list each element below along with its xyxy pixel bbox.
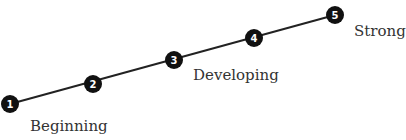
svg-text:4: 4 bbox=[251, 33, 258, 44]
node-2: 2 bbox=[84, 75, 102, 93]
label-strong: Strong bbox=[354, 22, 406, 40]
node-5: 5 bbox=[326, 6, 344, 24]
svg-text:5: 5 bbox=[332, 10, 339, 21]
node-4: 4 bbox=[245, 29, 263, 47]
node-3: 3 bbox=[165, 51, 183, 69]
svg-text:3: 3 bbox=[171, 55, 178, 66]
svg-text:1: 1 bbox=[7, 99, 14, 110]
node-1: 1 bbox=[1, 95, 19, 113]
label-developing: Developing bbox=[193, 66, 279, 84]
svg-text:2: 2 bbox=[90, 79, 97, 90]
label-beginning: Beginning bbox=[30, 117, 108, 135]
